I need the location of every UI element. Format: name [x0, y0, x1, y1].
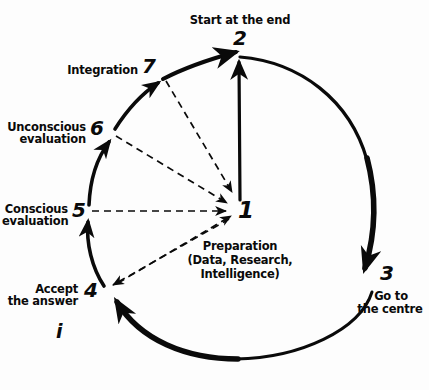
stray-ink-mark: i: [56, 322, 62, 342]
arc-6-to-7: [115, 83, 158, 129]
node-5-label-line2: evaluation: [2, 215, 68, 227]
center-caption-line2: (Data, Research,: [178, 254, 302, 268]
node-6-label-line2: evaluation: [2, 133, 86, 145]
node-4-label-line2: the answer: [6, 295, 78, 307]
node-3-label-line2: the centre: [352, 303, 428, 315]
node-4-number: 4: [84, 280, 98, 301]
arc-3-to-4: [117, 292, 372, 359]
arc-7-to-2: [163, 52, 236, 79]
arc-4-to-5: [88, 222, 104, 286]
arrow-1-to-2: [239, 62, 240, 200]
center-number: 1: [238, 198, 254, 222]
arc-2-to-3: [240, 57, 374, 268]
dashed-6-to-1: [116, 136, 227, 203]
node-2-number: 2: [212, 28, 268, 49]
node-6-number: 6: [90, 118, 104, 139]
node-3-label-line1: Go to: [358, 290, 424, 302]
cycle-diagram-canvas: [0, 0, 429, 390]
node-7-number: 7: [142, 56, 156, 77]
center-caption-line3: Intelligence): [180, 268, 300, 282]
node-3-number: 3: [380, 263, 394, 284]
cycle-diagram: Start at the end 2 Integration 7 Unconsc…: [0, 0, 429, 390]
node-2-label: Start at the end: [176, 14, 304, 26]
node-5-number: 5: [72, 200, 86, 221]
node-7-label: Integration: [58, 64, 138, 76]
center-caption-line1: Preparation: [182, 240, 298, 254]
dashed-7-to-1: [166, 81, 232, 192]
arc-5-to-6: [89, 142, 109, 205]
